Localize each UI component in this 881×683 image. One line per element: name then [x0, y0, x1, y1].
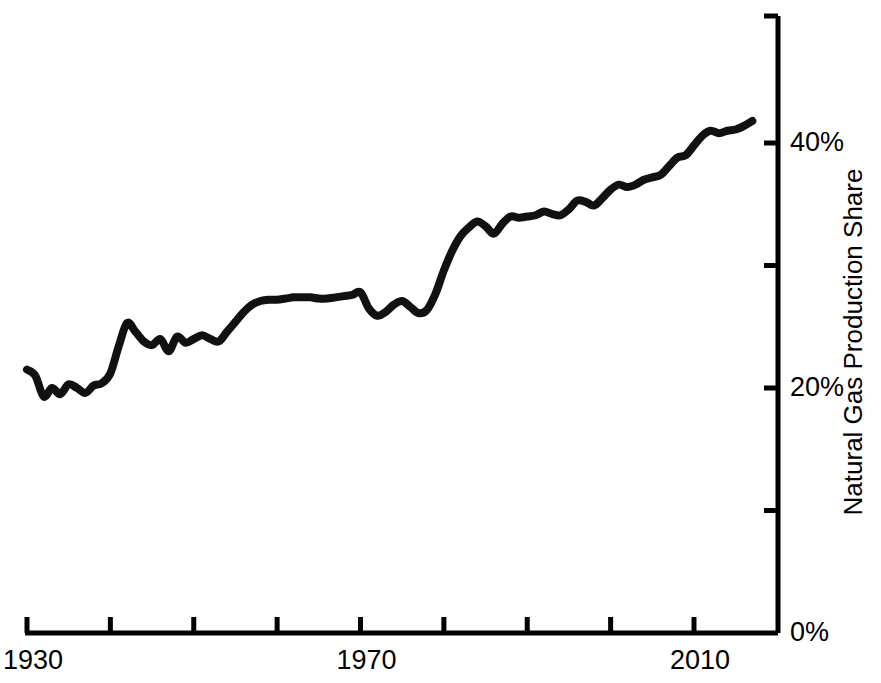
y-tick-label: 0% [790, 619, 829, 646]
x-tick-label: 2010 [670, 647, 730, 674]
data-series-line [27, 121, 752, 397]
axis-lines [25, 16, 778, 633]
y-axis-title: Natural Gas Production Share [838, 168, 869, 515]
line-chart-plot [0, 0, 881, 683]
axis-ticks [27, 143, 778, 633]
x-tick-label: 1970 [337, 647, 397, 674]
x-tick-label: 1930 [3, 647, 63, 674]
chart-container: 193019702010 0%20%40% Natural Gas Produc… [0, 0, 881, 683]
y-axis-title-wrap: Natural Gas Production Share [825, 0, 881, 683]
